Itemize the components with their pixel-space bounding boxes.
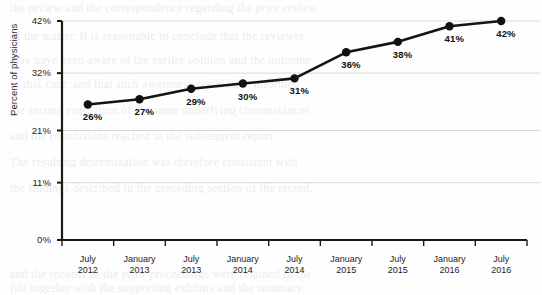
x-axis-tick-label: January2016: [423, 254, 477, 276]
y-axis-tick-label: 21%: [15, 125, 51, 136]
data-point-marker: [394, 38, 402, 46]
data-point-label: 38%: [393, 49, 413, 60]
chart-figure: the review and the correspondence regard…: [0, 0, 542, 295]
data-point-marker: [342, 48, 350, 56]
data-point-marker: [290, 74, 298, 82]
x-axis-tick-label: July2016: [474, 254, 528, 276]
y-axis-tick-label: 42%: [15, 15, 51, 26]
x-axis-tick-label: July2013: [164, 254, 218, 276]
data-point-marker: [135, 95, 143, 103]
data-point-label: 31%: [290, 85, 310, 96]
data-point-label: 29%: [186, 96, 206, 107]
data-point-label: 42%: [496, 28, 516, 39]
data-point-label: 26%: [83, 111, 103, 122]
data-point-marker: [84, 100, 92, 108]
data-point-marker: [239, 79, 247, 87]
y-axis-tick-label: 0%: [15, 234, 51, 245]
data-point-marker: [445, 22, 453, 30]
x-axis-tick-label: January2014: [216, 254, 270, 276]
data-point-label: 36%: [341, 59, 361, 70]
x-axis-tick-label: July2015: [371, 254, 425, 276]
chart-svg: [0, 0, 542, 295]
data-point-label: 41%: [445, 33, 465, 44]
x-axis-tick-label: July2012: [61, 254, 115, 276]
gridlines: [62, 21, 540, 240]
data-point-label: 27%: [135, 106, 155, 117]
data-point-label: 30%: [238, 91, 258, 102]
data-point-marker: [497, 17, 505, 25]
y-axis-tick-label: 11%: [15, 177, 51, 188]
data-point-marker: [187, 85, 195, 93]
x-axis-tick-label: July2014: [268, 254, 322, 276]
plot-area: [0, 0, 542, 295]
y-axis-tick-label: 32%: [15, 67, 51, 78]
x-axis-tick-label: January2013: [113, 254, 167, 276]
x-axis-tick-label: January2015: [319, 254, 373, 276]
